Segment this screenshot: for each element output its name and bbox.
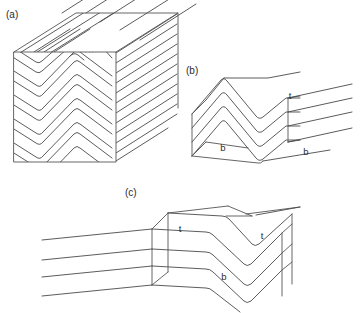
figure-canvas: (a): [0, 0, 363, 313]
panel-c-top-surface-label-left: t: [179, 223, 182, 234]
panel-b-bottom-surface-label-right: b: [303, 146, 308, 157]
panel-a-front-face: [6, 30, 116, 183]
panel-c-top-surface-label-right: t: [261, 230, 264, 241]
panel-c-bottom-surface-label: b: [221, 271, 226, 282]
panel-c-label: (c): [125, 187, 137, 198]
panel-b-bottom-surface-label-left: b: [220, 142, 225, 153]
panel-b-label: (b): [186, 65, 198, 76]
panel-a-front-fill: [14, 52, 116, 162]
chevron-fold-diagram: (a): [0, 0, 363, 313]
panel-b-top-surface-label: t: [289, 90, 292, 101]
panel-a-label: (a): [6, 9, 18, 20]
